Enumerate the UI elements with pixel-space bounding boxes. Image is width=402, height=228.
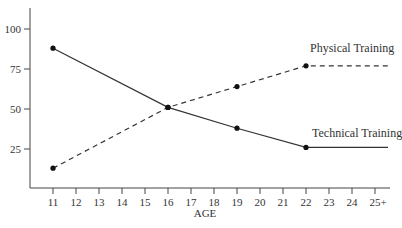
x-tick-label: 16 [163,196,175,208]
x-tick-label: 15 [140,196,152,208]
data-point-marker [165,105,170,110]
data-point-marker [303,63,308,68]
y-tick-label: 25 [10,143,22,155]
x-tick-label: 22 [301,196,312,208]
x-tick-label: 14 [117,196,129,208]
data-point-marker [50,46,55,51]
x-tick-label: 12 [71,196,82,208]
x-tick-label: 25+ [369,196,386,208]
line-chart: 255075100111213141516171819202122232425+… [0,0,402,228]
x-tick-label: 21 [278,196,289,208]
y-tick-label: 50 [10,103,22,115]
series-lines [50,46,388,171]
y-tick-label: 100 [5,23,22,35]
data-point-marker [234,84,239,89]
data-point-marker [50,166,55,171]
x-tick-label: 19 [232,196,244,208]
x-tick-label: 20 [255,196,267,208]
axes: 255075100111213141516171819202122232425+ [5,8,391,208]
x-tick-label: 11 [48,196,59,208]
x-tick-label: 13 [94,196,106,208]
x-tick-label: 24 [347,196,359,208]
technical-training-label: Technical Training [312,126,402,140]
physical-training-line [53,66,388,168]
x-axis-label: AGE [194,207,217,219]
physical-training-label: Physical Training [310,41,394,55]
data-point-marker [234,126,239,131]
x-tick-label: 23 [324,196,336,208]
y-tick-label: 75 [10,63,22,75]
data-point-marker [303,145,308,150]
